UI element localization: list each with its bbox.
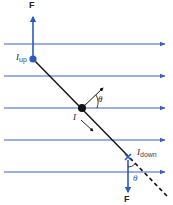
current-down-label: Idown [137, 148, 157, 158]
current-down-label-sub: down [140, 151, 157, 158]
force-label-top: F [29, 1, 35, 10]
theta-label-bottom: θ [133, 174, 137, 183]
theta-label-top: θ [98, 95, 102, 104]
force-label-bottom: F [124, 195, 130, 204]
current-up-dot [29, 55, 36, 62]
current-up-label-sub: up [19, 56, 27, 63]
diagram-canvas [0, 0, 173, 205]
current-direction-arrow [81, 120, 93, 131]
current-down-cross-icon [125, 154, 131, 160]
current-center-label: I [73, 113, 76, 122]
current-up-label: Iup [16, 53, 27, 63]
theta-arc-bottom [128, 164, 135, 167]
